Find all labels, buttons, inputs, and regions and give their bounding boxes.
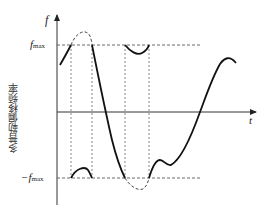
neg-fmax-main: −f: [21, 171, 31, 183]
neg-fmax-sub: max: [31, 175, 43, 183]
curve-segment-1: [60, 45, 71, 65]
overshoot-bottom-dashed: [125, 178, 149, 189]
wrapped-segment-top: [125, 45, 149, 54]
neg-fmax-label: −fmax: [21, 171, 44, 183]
wrapped-segment-bottom: [71, 168, 92, 178]
y-axis-title: 多普勒偏移频率: [4, 78, 24, 158]
fmax-label: fmax: [30, 38, 45, 50]
doppler-shift-diagram: 多普勒偏移频率 f fmax −fmax t: [0, 0, 267, 218]
fmax-sub: max: [33, 42, 45, 50]
x-axis-symbol: t: [249, 114, 252, 126]
overshoot-top-dashed: [71, 32, 92, 45]
y-axis-symbol: f: [45, 13, 48, 28]
curve-segment-3: [149, 58, 236, 178]
diagram-canvas: [0, 0, 267, 218]
